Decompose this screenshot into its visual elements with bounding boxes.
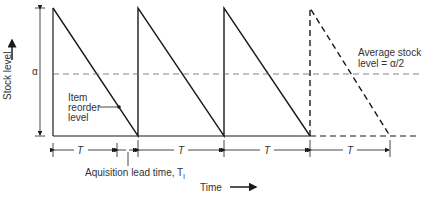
alpha-label: α	[32, 66, 38, 77]
period-label-1: T	[77, 145, 83, 156]
reorder-label-line3: level	[68, 112, 89, 123]
period-label-3: T	[264, 145, 270, 156]
sawtooth-line	[53, 8, 310, 136]
average-label-line1: Average stock	[358, 47, 421, 58]
period-label-4: T	[347, 145, 353, 156]
projected-cycle	[310, 8, 390, 136]
average-label-line2: level = α/2	[358, 58, 404, 69]
period-dimensions	[53, 140, 390, 166]
x-axis-label: Time	[200, 182, 222, 193]
period-label-2: T	[178, 145, 184, 156]
lead-time-label: Aquisition lead time, Tl	[85, 167, 185, 182]
y-axis-label: Stock level	[2, 52, 13, 100]
inventory-diagram	[0, 0, 427, 199]
